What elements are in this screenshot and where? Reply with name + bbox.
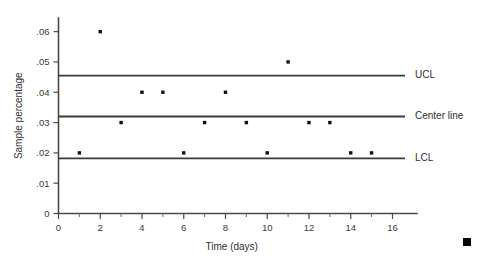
y-tick-label-6: .06 xyxy=(36,26,49,37)
x-tick-label-5: 10 xyxy=(262,222,273,233)
control-chart-figure: 0.01.02.03.04.05.060246810121416UCLCente… xyxy=(0,0,487,260)
data-point-day-12[interactable] xyxy=(307,121,310,124)
data-point-day-1[interactable] xyxy=(78,151,81,154)
x-tick-label-8: 16 xyxy=(387,222,398,233)
control-line-label-center: Center line xyxy=(415,110,464,121)
data-point-day-15[interactable] xyxy=(370,151,373,154)
data-point-day-8[interactable] xyxy=(224,91,227,94)
x-tick-label-4: 8 xyxy=(223,222,228,233)
data-point-day-5[interactable] xyxy=(161,91,164,94)
data-point-day-2[interactable] xyxy=(99,30,102,33)
data-point-day-9[interactable] xyxy=(245,121,248,124)
y-axis-title: Sample percentage xyxy=(13,72,24,159)
x-tick-label-7: 14 xyxy=(345,222,356,233)
data-point-day-4[interactable] xyxy=(140,91,143,94)
data-point-day-7[interactable] xyxy=(203,121,206,124)
y-tick-label-1: .01 xyxy=(36,178,49,189)
y-tick-label-2: .02 xyxy=(36,147,49,158)
data-point-day-14[interactable] xyxy=(349,151,352,154)
data-point-day-13[interactable] xyxy=(328,121,331,124)
chart-canvas: 0.01.02.03.04.05.060246810121416UCLCente… xyxy=(0,0,487,260)
control-line-label-ucl: UCL xyxy=(415,69,435,80)
x-tick-label-6: 12 xyxy=(304,222,315,233)
control-line-label-lcl: LCL xyxy=(415,152,434,163)
data-point-day-6[interactable] xyxy=(182,151,185,154)
x-tick-label-0: 0 xyxy=(56,222,61,233)
page-corner-square xyxy=(463,238,471,246)
data-point-day-10[interactable] xyxy=(266,151,269,154)
y-tick-label-5: .05 xyxy=(36,56,49,67)
y-tick-label-4: .04 xyxy=(36,87,49,98)
x-tick-label-3: 6 xyxy=(181,222,186,233)
x-tick-label-2: 4 xyxy=(139,222,144,233)
x-tick-label-1: 2 xyxy=(98,222,103,233)
y-tick-label-3: .03 xyxy=(36,117,49,128)
data-point-day-11[interactable] xyxy=(286,60,289,63)
x-axis-title: Time (days) xyxy=(206,241,258,252)
data-point-day-3[interactable] xyxy=(119,121,122,124)
y-tick-label-0: 0 xyxy=(44,208,49,219)
